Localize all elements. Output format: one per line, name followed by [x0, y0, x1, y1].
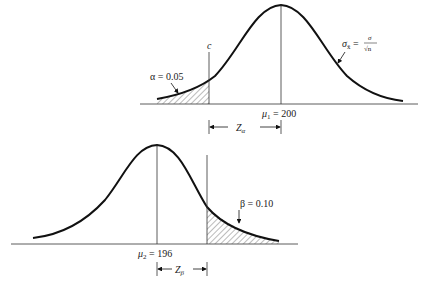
sigma-label: σx̄ =: [342, 38, 359, 51]
z-alpha-label: Zα: [236, 122, 246, 135]
top-normal-curve: [157, 5, 403, 101]
sigma-pointer-arrow: [338, 52, 345, 63]
z-beta-label: Zβ: [175, 264, 185, 277]
beta-label: β = 0.10: [240, 198, 273, 209]
bottom-normal-curve: [33, 145, 279, 241]
critical-value-label: c: [207, 40, 212, 51]
alpha-label: α = 0.05: [150, 71, 183, 82]
hypothesis-test-diagram: c α = 0.05 μ1 = 200 σx̄ = σ √n Zα β = 0.…: [0, 0, 427, 282]
mu2-label: μ2 = 196: [137, 248, 172, 261]
bottom-distribution: β = 0.10 μ2 = 196 Zβ: [11, 145, 298, 277]
top-distribution: c α = 0.05 μ1 = 200 σx̄ = σ √n Zα: [140, 5, 418, 135]
sigma-frac-numerator: σ: [368, 34, 372, 42]
mu1-label: μ1 = 200: [261, 108, 296, 121]
alpha-pointer-arrow: [171, 83, 178, 93]
sigma-frac-denominator: √n: [364, 45, 372, 53]
